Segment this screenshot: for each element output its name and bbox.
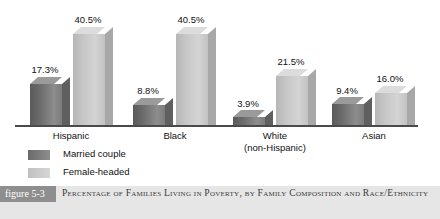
bar-hispanic-married-couple [30, 84, 62, 125]
bar-front-face [133, 105, 165, 125]
bar-top-face [73, 27, 105, 34]
bar-asian-female-headed [375, 93, 407, 125]
bar-front-face [276, 76, 308, 125]
bar-asian-married-couple [332, 104, 364, 125]
bar-top-face [233, 110, 265, 117]
bar-side-face [407, 86, 415, 125]
bar-value-label: 3.9% [228, 98, 268, 109]
x-axis-label-white-line1: White [263, 130, 287, 141]
x-axis-label-black: Black [140, 130, 210, 142]
bar-side-face [165, 98, 173, 125]
figure-number-badge: figure 5-3 [0, 186, 56, 202]
bar-value-label: 17.3% [25, 64, 65, 75]
figure-number-text: figure 5-3 [5, 188, 45, 199]
bar-top-face [176, 27, 208, 34]
bar-black-married-couple [133, 105, 165, 125]
bar-white-female-headed [276, 76, 308, 125]
bar-front-face [233, 117, 265, 125]
legend-swatch-female-headed [28, 168, 50, 178]
bar-front-face [375, 93, 407, 125]
bar-side-face [364, 97, 372, 125]
figure-container: 17.3% 40.5% 8.8% 40.5% 3.9% [0, 0, 440, 219]
bar-top-face [332, 97, 364, 104]
x-axis-label-white: White (non-Hispanic) [240, 130, 310, 154]
bar-side-face [265, 110, 273, 125]
bar-value-label: 8.8% [128, 85, 168, 96]
bar-front-face [73, 34, 105, 125]
figure-caption-line2: and Race/Ethnicity [344, 187, 428, 198]
x-axis-label-hispanic: Hispanic [36, 130, 106, 142]
bar-front-face [30, 84, 62, 125]
bar-black-female-headed [176, 34, 208, 125]
bar-top-face [133, 98, 165, 105]
bar-chart-plot-area: 17.3% 40.5% 8.8% 40.5% 3.9% [0, 0, 440, 136]
figure-caption-line1: Percentage of Families Living in Poverty… [62, 187, 342, 198]
bar-value-label: 9.4% [327, 85, 367, 96]
x-axis-label-white-line2: (non-Hispanic) [244, 142, 306, 153]
bar-side-face [208, 27, 216, 125]
bar-value-label: 40.5% [68, 14, 108, 25]
bar-value-label: 21.5% [271, 56, 311, 67]
bar-value-label: 16.0% [370, 73, 410, 84]
bar-value-label: 40.5% [171, 14, 211, 25]
legend-label-female-headed: Female-headed [63, 166, 130, 177]
bar-side-face [105, 27, 113, 125]
bar-white-married-couple [233, 117, 265, 125]
bar-front-face [176, 34, 208, 125]
legend-swatch-married-couple [28, 150, 50, 160]
bar-top-face [276, 69, 308, 76]
x-axis-line [15, 125, 418, 127]
bar-hispanic-female-headed [73, 34, 105, 125]
bar-front-face [332, 104, 364, 125]
figure-caption-text: Percentage of Families Living in Poverty… [62, 187, 434, 200]
legend-label-married-couple: Married couple [63, 148, 126, 159]
figure-caption-bar: figure 5-3 Percentage of Families Living… [0, 186, 440, 219]
x-axis-label-asian: Asian [339, 130, 409, 142]
bar-top-face [375, 86, 407, 93]
bar-top-face [30, 77, 62, 84]
bar-side-face [308, 69, 316, 125]
bar-side-face [62, 77, 70, 125]
